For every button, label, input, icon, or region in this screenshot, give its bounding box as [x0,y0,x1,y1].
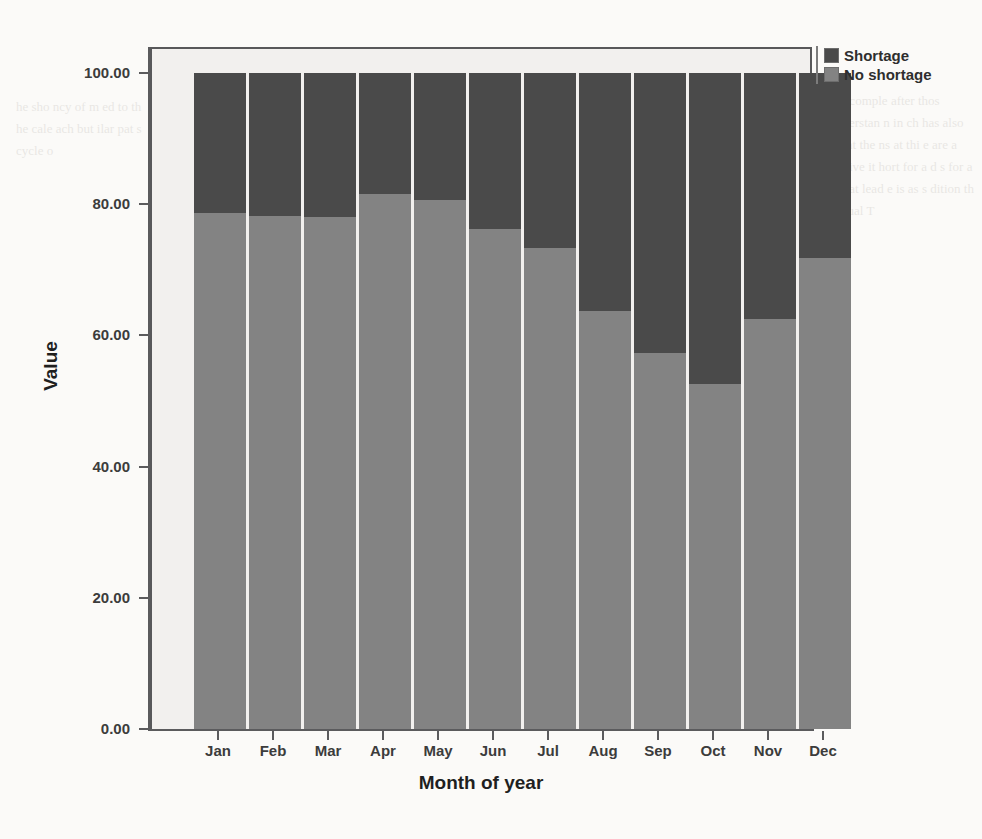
bar-segment-shortage[interactable] [744,73,796,319]
bar-segment-no-shortage[interactable] [414,200,466,729]
bar-dec[interactable] [799,73,851,729]
bar-segment-no-shortage[interactable] [744,319,796,729]
x-tick-label-feb: Feb [243,742,303,759]
y-tick-label: 0.00 [101,720,130,737]
bar-jul[interactable] [524,73,576,729]
bars-container [152,49,810,729]
bar-jun[interactable] [469,73,521,729]
y-axis-line [148,47,150,731]
bar-segment-shortage[interactable] [579,73,631,311]
x-tick-label-mar: Mar [298,742,358,759]
bar-oct[interactable] [689,73,741,729]
x-tick-label-jun: Jun [463,742,523,759]
y-tick-label: 20.00 [92,589,130,606]
x-tick-label-may: May [408,742,468,759]
x-tick-mark [547,731,549,740]
bar-segment-shortage[interactable] [304,73,356,217]
bar-segment-no-shortage[interactable] [579,311,631,729]
x-tick-mark [767,731,769,740]
x-tick-mark [217,731,219,740]
bar-segment-shortage[interactable] [359,73,411,194]
x-tick-mark [437,731,439,740]
y-tick-mark [139,72,148,74]
y-tick-label: 60.00 [92,326,130,343]
x-tick-label-dec: Dec [793,742,853,759]
legend-swatch-icon [824,48,839,63]
plot-area [150,47,812,731]
bar-mar[interactable] [304,73,356,729]
bar-segment-no-shortage[interactable] [799,258,851,729]
bar-segment-no-shortage[interactable] [304,217,356,729]
bar-may[interactable] [414,73,466,729]
y-tick-label: 80.00 [92,195,130,212]
bar-segment-shortage[interactable] [469,73,521,229]
x-tick-mark [712,731,714,740]
y-tick-mark [139,466,148,468]
bar-segment-shortage[interactable] [249,73,301,216]
y-tick-label: 100.00 [84,64,130,81]
y-tick-mark [139,334,148,336]
x-tick-mark [327,731,329,740]
x-axis-title: Month of year [150,772,812,794]
legend-label: No shortage [844,66,932,83]
legend-item-no-shortage[interactable]: No shortage [824,65,932,84]
x-axis-line [148,729,814,731]
bar-apr[interactable] [359,73,411,729]
bar-segment-no-shortage[interactable] [689,384,741,729]
bar-sep[interactable] [634,73,686,729]
x-tick-label-sep: Sep [628,742,688,759]
stacked-bar-chart: 0.0020.0040.0060.0080.00100.00 JanFebMar… [0,0,982,839]
y-tick-mark [139,597,148,599]
x-tick-mark [602,731,604,740]
bar-segment-shortage[interactable] [799,73,851,258]
legend: ShortageNo shortage [816,46,932,84]
legend-label: Shortage [844,47,909,64]
bar-segment-no-shortage[interactable] [524,248,576,729]
x-tick-label-jul: Jul [518,742,578,759]
bar-segment-shortage[interactable] [414,73,466,200]
x-tick-label-nov: Nov [738,742,798,759]
bar-segment-no-shortage[interactable] [634,353,686,729]
bar-nov[interactable] [744,73,796,729]
x-tick-mark [492,731,494,740]
x-tick-label-jan: Jan [188,742,248,759]
legend-item-shortage[interactable]: Shortage [824,46,932,65]
bar-segment-no-shortage[interactable] [194,213,246,729]
y-axis-title: Value [40,306,62,426]
x-tick-label-apr: Apr [353,742,413,759]
legend-swatch-icon [824,67,839,82]
y-tick-label: 40.00 [92,458,130,475]
y-tick-mark [139,203,148,205]
x-tick-mark [822,731,824,740]
bar-segment-shortage[interactable] [194,73,246,213]
x-tick-mark [272,731,274,740]
bar-segment-shortage[interactable] [634,73,686,353]
bar-segment-shortage[interactable] [689,73,741,384]
bar-segment-no-shortage[interactable] [469,229,521,729]
y-tick-mark [139,728,148,730]
bar-segment-no-shortage[interactable] [359,194,411,729]
x-tick-mark [657,731,659,740]
bar-aug[interactable] [579,73,631,729]
x-tick-label-aug: Aug [573,742,633,759]
bar-segment-no-shortage[interactable] [249,216,301,729]
bar-feb[interactable] [249,73,301,729]
x-tick-mark [382,731,384,740]
bar-segment-shortage[interactable] [524,73,576,248]
x-tick-label-oct: Oct [683,742,743,759]
bar-jan[interactable] [194,73,246,729]
